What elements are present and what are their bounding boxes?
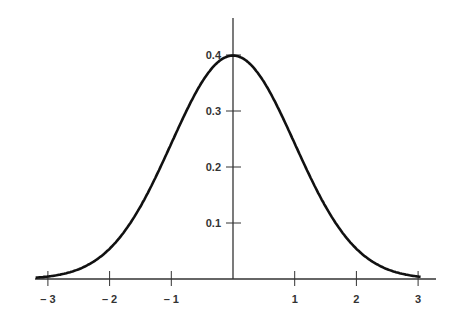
y-tick-label: 0.2 <box>206 161 221 173</box>
normal-distribution-chart: – 3– 2– 11230.10.20.30.4 <box>0 0 461 322</box>
x-tick-label: – 3 <box>40 293 55 305</box>
y-tick-label: 0.1 <box>206 217 221 229</box>
x-tick-label: – 2 <box>102 293 117 305</box>
x-tick-label: – 1 <box>164 293 179 305</box>
axes <box>35 18 436 279</box>
x-tick-label: 2 <box>353 293 359 305</box>
x-tick-label: 1 <box>292 293 298 305</box>
ticks: – 3– 2– 11230.10.20.30.4 <box>40 49 421 305</box>
y-tick-label: 0.3 <box>206 105 221 117</box>
x-tick-label: 3 <box>415 293 421 305</box>
y-tick-label: 0.4 <box>206 49 222 61</box>
